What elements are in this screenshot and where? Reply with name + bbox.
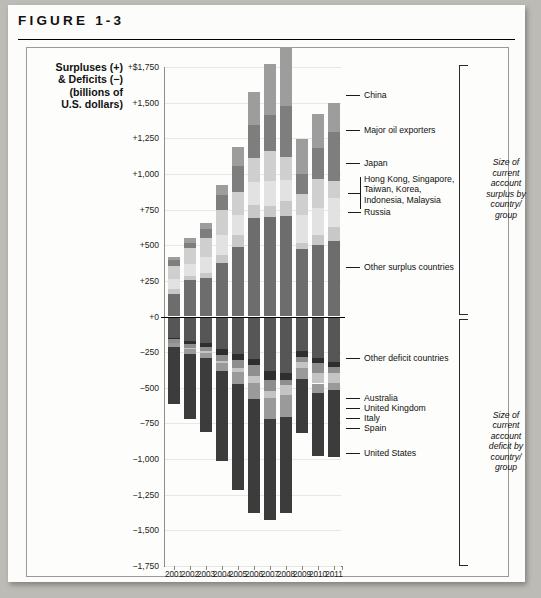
bar-segment <box>296 194 308 215</box>
leader-line <box>348 193 360 194</box>
bar-segment <box>168 257 180 259</box>
bar-segment <box>296 249 308 316</box>
bar-segment <box>328 383 340 390</box>
bar-segment <box>248 383 260 399</box>
bar-segment <box>168 347 180 404</box>
bar-segment <box>280 216 292 317</box>
deficit-bracket-text-line-1: Size of <box>474 410 538 421</box>
callout-china: China <box>364 90 387 100</box>
bar-segment <box>280 373 292 380</box>
surplus-bracket-text-line-2: current <box>474 168 538 179</box>
bracket-tip-bottom <box>459 565 468 566</box>
bar-segment <box>232 215 244 234</box>
bar-segment <box>328 367 340 374</box>
bar-segment <box>216 363 228 371</box>
leader-line <box>346 358 360 359</box>
deficit-bracket-text-line-2: current <box>474 420 538 431</box>
bar-segment <box>328 181 340 198</box>
leader-line <box>346 453 360 454</box>
bar-segment <box>184 248 196 264</box>
bar-segment <box>248 365 260 376</box>
bar-segment <box>184 264 196 276</box>
bar-segment <box>328 390 340 456</box>
bar-segment <box>216 263 228 316</box>
callout-spain: Spain <box>364 423 386 433</box>
bar-segment <box>232 235 244 247</box>
bar-segment <box>200 229 212 238</box>
x-tick <box>342 566 343 570</box>
callout-asia-group-line-3: Indonesia, Malaysia <box>364 195 454 205</box>
bar-segment <box>312 363 324 374</box>
page-background: FIGURE 1-3 Surpluses (+) & Deficits (−) … <box>0 0 541 598</box>
deficit-bracket-text-line-3: account <box>474 431 538 442</box>
bar-segment <box>216 185 228 195</box>
deficit-bracket <box>459 319 469 566</box>
bar-segment <box>184 243 196 248</box>
x-tick-label: 2011 <box>321 570 347 579</box>
bar-segment <box>200 317 212 343</box>
bar-segment <box>312 235 324 245</box>
leader-line <box>346 95 360 96</box>
bar-segment <box>280 317 292 373</box>
bar-segment <box>312 148 324 179</box>
bar-segment <box>248 376 260 383</box>
bar-segment <box>232 317 244 355</box>
bracket-spine <box>459 319 460 566</box>
bar-segment <box>248 218 260 316</box>
bar-segment <box>216 371 228 461</box>
y-tick-label: +$1,750 <box>107 62 159 72</box>
surplus-bracket-text-line-5: country/ <box>474 199 538 210</box>
y-tick-label: −750 <box>107 418 159 428</box>
bar-segment <box>280 417 292 514</box>
bar-segment <box>200 358 212 432</box>
bar-segment <box>296 174 308 194</box>
bar-segment <box>264 115 276 151</box>
bar-segment <box>312 114 324 148</box>
leader-line <box>346 428 360 429</box>
bar-segment <box>248 158 260 182</box>
y-tick-label: +1,000 <box>107 169 159 179</box>
bar-segment <box>328 103 340 132</box>
bar-segment <box>280 106 292 157</box>
bar-segment <box>328 132 340 181</box>
bar-segment <box>248 317 260 360</box>
bar-segment <box>296 379 308 433</box>
bar-segment <box>264 64 276 114</box>
bar-segment <box>248 125 260 158</box>
bar-segment <box>264 380 276 391</box>
bar-segment <box>232 384 244 490</box>
deficit-bracket-text-line-6: group <box>474 462 538 473</box>
bar-segment <box>168 294 180 317</box>
bar-segment <box>184 354 196 419</box>
bar-segment <box>328 227 340 241</box>
bar-segment <box>312 245 324 316</box>
bar-segment <box>312 393 324 456</box>
y-tick-label: +0 <box>107 312 159 322</box>
bracket-spine <box>459 65 460 315</box>
figure-label: FIGURE 1-3 <box>18 13 124 28</box>
bar-segment <box>328 241 340 317</box>
bar-segment <box>168 317 180 338</box>
bar-segment <box>280 395 292 417</box>
bar-segment <box>312 373 324 383</box>
bar-segment <box>264 151 276 181</box>
surplus-bracket-text-line-6: group <box>474 210 538 221</box>
bar-segment <box>312 384 324 393</box>
bar-segment <box>296 317 308 351</box>
leader-line <box>346 398 360 399</box>
y-tick-label: +1,500 <box>107 98 159 108</box>
y-tick-label: −1,500 <box>107 525 159 535</box>
leader-line <box>346 267 360 268</box>
bar-segment <box>184 317 196 342</box>
bar-segment <box>296 215 308 243</box>
callout-other-surplus-countries: Other surplus countries <box>364 262 454 272</box>
y-axis-title-line-3: (billions of <box>28 86 123 98</box>
bar-segment <box>184 276 196 280</box>
bracket-tip-top <box>459 319 468 320</box>
callout-russia: Russia <box>364 207 391 217</box>
y-tick-label: −1,750 <box>107 561 159 571</box>
bar-segment <box>280 385 292 395</box>
leader-line <box>348 212 361 213</box>
surplus-bracket-text-line-4: surplus by <box>474 189 538 200</box>
bar-segment <box>216 210 228 235</box>
